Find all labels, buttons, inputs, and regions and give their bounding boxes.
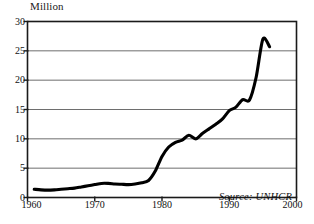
x-axis-tick-label: 1970	[85, 200, 105, 210]
x-axis-tick-label: 2000	[283, 200, 303, 210]
chart-screenshot: Million 051015202530 Source: UNHCR 19601…	[0, 0, 314, 224]
data-series-group	[34, 38, 269, 190]
x-axis-tick-label: 1960	[22, 200, 42, 210]
series-line	[34, 38, 269, 190]
x-axis-tick-label: 1990	[219, 200, 239, 210]
x-axis-tick-label: 1980	[152, 200, 172, 210]
refugee-population-line-chart: Million 051015202530 Source: UNHCR 19601…	[0, 0, 314, 224]
